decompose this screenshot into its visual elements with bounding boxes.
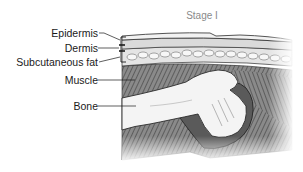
pressure-ulcer-illustration (0, 0, 303, 172)
leader-subcutaneous-fat (99, 57, 120, 62)
leader-epidermis (99, 33, 120, 40)
